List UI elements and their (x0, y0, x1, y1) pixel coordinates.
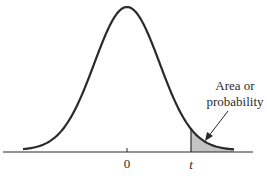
arrowhead-icon (205, 132, 213, 141)
t-distribution-diagram: 0 t Area or probability (0, 0, 267, 179)
zero-label: 0 (124, 156, 131, 171)
annotation-arrow (208, 111, 228, 137)
annotation-line1: Area or (215, 78, 255, 93)
density-curve (23, 7, 234, 149)
t-label: t (189, 157, 193, 172)
annotation-line2: probability (206, 94, 264, 109)
